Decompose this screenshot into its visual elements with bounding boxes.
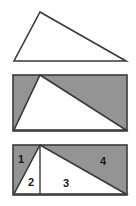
region-label-3: 3: [63, 177, 69, 189]
region-label-1: 1: [18, 153, 24, 165]
panel-partitioned-rectangle: 1 2 3 4: [0, 138, 136, 206]
panel-3-canvas: 1 2 3 4: [0, 138, 136, 206]
panel-2-canvas: [0, 70, 136, 138]
panel-triangle-in-rectangle: [0, 70, 136, 138]
geometry-figure: 1 2 3 4: [0, 0, 136, 206]
triangle-outline: [14, 12, 126, 61]
region-label-4: 4: [100, 155, 107, 167]
region-label-2: 2: [28, 176, 34, 188]
panel-outlined-triangle: [0, 0, 136, 70]
panel-1-canvas: [0, 0, 136, 70]
